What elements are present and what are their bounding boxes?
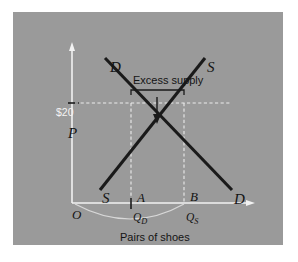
figure-panel: D S S D A B O P $20 Excess supply Pairs …: [13, 12, 283, 245]
excess-supply-label: Excess supply: [133, 75, 203, 86]
quantity-supplied-subscript: S: [194, 217, 198, 226]
quantity-supplied-label: QS: [186, 212, 198, 227]
quantity-axis-arrowhead: [246, 200, 255, 206]
price-axis-arrowhead: [69, 42, 75, 51]
price-value-label: $20: [56, 107, 74, 118]
x-axis-range-brace: [75, 204, 184, 219]
screenshot-root: D S S D A B O P $20 Excess supply Pairs …: [0, 0, 298, 262]
supply-curve-label-bottom: S: [102, 191, 110, 206]
demand-curve-label-top: D: [110, 60, 121, 75]
quantity-demanded-subscript: D: [141, 217, 147, 226]
demand-curve-label-bottom: D: [234, 192, 245, 207]
supply-curve-label-top: S: [207, 60, 215, 75]
price-axis-label: P: [68, 126, 77, 141]
point-a-label: A: [137, 191, 145, 204]
quantity-demanded-label: QD: [133, 212, 147, 227]
x-axis-caption: Pairs of shoes: [120, 232, 190, 243]
origin-label: O: [72, 208, 81, 221]
supply-demand-chart: [13, 12, 283, 245]
point-b-label: B: [190, 190, 198, 203]
